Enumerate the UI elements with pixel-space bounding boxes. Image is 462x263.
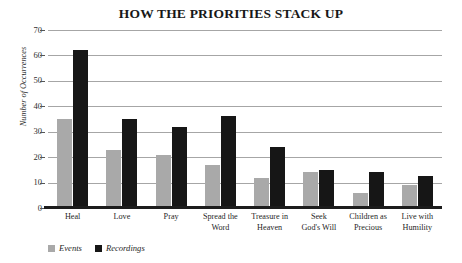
bar-events <box>303 172 318 208</box>
bar-recordings <box>73 50 88 208</box>
bar-recordings <box>369 172 384 208</box>
bar-events <box>205 165 220 208</box>
chart-title: HOW THE PRIORITIES STACK UP <box>0 6 462 22</box>
x-category-label: Love <box>97 212 146 223</box>
bar-events <box>106 150 121 208</box>
y-tick-label: 50 <box>20 76 42 85</box>
y-tick-label: 70 <box>20 26 42 35</box>
y-tick-mark <box>40 132 45 133</box>
bar-recordings <box>418 176 433 208</box>
x-category-label: SeekGod's Will <box>294 212 343 233</box>
bar-group <box>393 30 442 208</box>
y-tick-mark <box>40 30 45 31</box>
bar-events <box>57 119 72 208</box>
legend-swatch-events <box>48 245 55 252</box>
y-tick-mark <box>40 183 45 184</box>
y-tick-label: 30 <box>20 127 42 136</box>
x-axis-baseline <box>44 206 442 209</box>
y-tick-label: 60 <box>20 51 42 60</box>
plot-area <box>48 30 442 208</box>
x-category-label: Heal <box>48 212 97 223</box>
legend-label: Events <box>59 243 82 253</box>
y-tick-mark <box>40 81 45 82</box>
x-category-label: Treasure inHeaven <box>245 212 294 233</box>
bar-group <box>344 30 393 208</box>
bar-group <box>196 30 245 208</box>
bar-group <box>97 30 146 208</box>
bar-group <box>245 30 294 208</box>
bar-recordings <box>122 119 137 208</box>
bar-recordings <box>172 127 187 208</box>
bar-recordings <box>270 147 285 208</box>
chart-legend: EventsRecordings <box>48 243 145 253</box>
y-tick-label: 0 <box>20 204 42 213</box>
bar-events <box>156 155 171 208</box>
y-tick-label: 10 <box>20 178 42 187</box>
x-category-label: Spread theWord <box>196 212 245 233</box>
bar-recordings <box>221 116 236 208</box>
x-category-label: Live withHumility <box>393 212 442 233</box>
y-axis-tick-labels: 010203040506070 <box>16 30 42 208</box>
bar-events <box>254 178 269 209</box>
legend-item-events: Events <box>48 243 82 253</box>
legend-item-recordings: Recordings <box>95 243 145 253</box>
y-tick-mark <box>40 106 45 107</box>
x-category-label: Pray <box>147 212 196 223</box>
bar-recordings <box>319 170 334 208</box>
x-category-label: Children asPrecious <box>344 212 393 233</box>
x-axis-category-labels: HealLovePraySpread theWordTreasure inHea… <box>48 212 442 242</box>
y-tick-mark <box>40 55 45 56</box>
y-tick-label: 40 <box>20 102 42 111</box>
legend-swatch-recordings <box>95 245 102 252</box>
bar-group <box>147 30 196 208</box>
y-tick-label: 20 <box>20 153 42 162</box>
bar-group <box>294 30 343 208</box>
chart-figure: HOW THE PRIORITIES STACK UP Number of Oc… <box>0 0 462 263</box>
legend-label: Recordings <box>106 243 145 253</box>
y-tick-mark <box>40 157 45 158</box>
bar-events <box>402 185 417 208</box>
bar-group <box>48 30 97 208</box>
